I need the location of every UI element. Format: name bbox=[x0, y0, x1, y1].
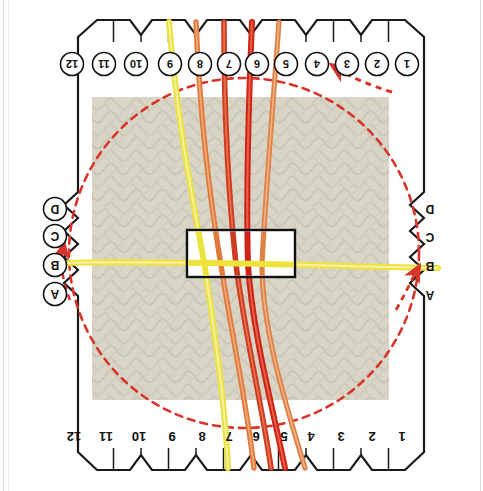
top-slot-4-label: 4 bbox=[313, 58, 320, 70]
bottom-slot-12-label[interactable]: 12 bbox=[67, 429, 81, 444]
top-slot-11-label: 11 bbox=[98, 58, 110, 70]
left-slot-B-label: B bbox=[50, 258, 59, 272]
top-slot-3-label: 3 bbox=[344, 58, 350, 70]
right-slot-labels: D C B A bbox=[425, 202, 434, 302]
bottom-slot-7-label[interactable]: 7 bbox=[225, 429, 232, 444]
bottom-slot-5-label[interactable]: 5 bbox=[280, 429, 287, 444]
top-slot-12-label: 12 bbox=[66, 58, 78, 70]
right-slot-A-label[interactable]: A bbox=[425, 288, 434, 302]
bottom-slot-11-label[interactable]: 11 bbox=[99, 429, 113, 444]
top-slot-8-label: 8 bbox=[197, 58, 203, 70]
right-slot-B-label[interactable]: B bbox=[425, 259, 434, 273]
left-slot-C[interactable]: C bbox=[44, 225, 67, 248]
top-slot-10[interactable]: 10 bbox=[125, 53, 148, 76]
top-slot-6[interactable]: 6 bbox=[246, 53, 269, 76]
top-slot-1-label: 1 bbox=[404, 58, 410, 70]
top-slot-3[interactable]: 3 bbox=[336, 53, 359, 76]
top-slot-2[interactable]: 2 bbox=[366, 53, 389, 76]
right-slot-D-label[interactable]: D bbox=[425, 202, 434, 216]
top-slot-9-label: 9 bbox=[167, 58, 173, 70]
weaving-card-diagram: 12 11 10 9 8 7 bbox=[0, 0, 483, 491]
left-slot-B[interactable]: B bbox=[44, 254, 67, 277]
bottom-slot-1-label[interactable]: 1 bbox=[398, 429, 405, 444]
top-slot-11[interactable]: 11 bbox=[93, 53, 116, 76]
left-slot-A-label: A bbox=[50, 287, 59, 301]
left-slot-D[interactable]: D bbox=[44, 198, 67, 221]
left-slot-A[interactable]: A bbox=[44, 283, 67, 306]
top-slot-9[interactable]: 9 bbox=[159, 53, 182, 76]
top-slot-1[interactable]: 1 bbox=[396, 53, 419, 76]
bottom-slot-9-label[interactable]: 9 bbox=[168, 429, 175, 444]
right-slot-C-label[interactable]: C bbox=[425, 230, 434, 244]
top-slot-7[interactable]: 7 bbox=[218, 53, 241, 76]
top-slot-7-label: 7 bbox=[226, 58, 232, 70]
bottom-slot-3-label[interactable]: 3 bbox=[337, 429, 344, 444]
top-slot-8[interactable]: 8 bbox=[189, 53, 212, 76]
left-slot-D-label: D bbox=[50, 202, 59, 216]
top-slot-10-label: 10 bbox=[130, 58, 142, 70]
bottom-slot-10-label[interactable]: 10 bbox=[132, 429, 146, 444]
top-slot-2-label: 2 bbox=[374, 58, 380, 70]
bottom-slot-2-label[interactable]: 2 bbox=[368, 429, 375, 444]
bottom-slot-4-label[interactable]: 4 bbox=[307, 429, 315, 444]
bottom-slot-6-label[interactable]: 6 bbox=[252, 429, 259, 444]
top-slot-12[interactable]: 12 bbox=[61, 53, 84, 76]
bottom-slot-8-label[interactable]: 8 bbox=[198, 429, 205, 444]
left-slot-C-label: C bbox=[50, 229, 59, 243]
top-slot-5[interactable]: 5 bbox=[275, 53, 298, 76]
diagram-stage: 12 11 10 9 8 7 bbox=[0, 0, 483, 491]
top-slot-4[interactable]: 4 bbox=[306, 53, 329, 76]
top-slot-5-label: 5 bbox=[283, 58, 289, 70]
top-slot-6-label: 6 bbox=[254, 58, 260, 70]
